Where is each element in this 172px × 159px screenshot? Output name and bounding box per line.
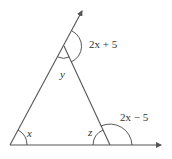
label-y: y (59, 68, 65, 80)
angle-z-arc (93, 130, 103, 145)
label-exterior-top: 2x + 5 (89, 38, 118, 50)
label-z: z (87, 126, 93, 138)
label-exterior-right: 2x − 5 (120, 111, 149, 123)
angle-top-exterior-arc (71, 31, 82, 62)
right-side (64, 46, 110, 145)
left-side-ray (10, 11, 82, 145)
triangle-diagram: x y z 2x + 5 2x − 5 (0, 0, 172, 159)
angle-y-arc (58, 57, 69, 58)
angle-x-arc (18, 130, 27, 145)
label-x: x (26, 127, 32, 139)
